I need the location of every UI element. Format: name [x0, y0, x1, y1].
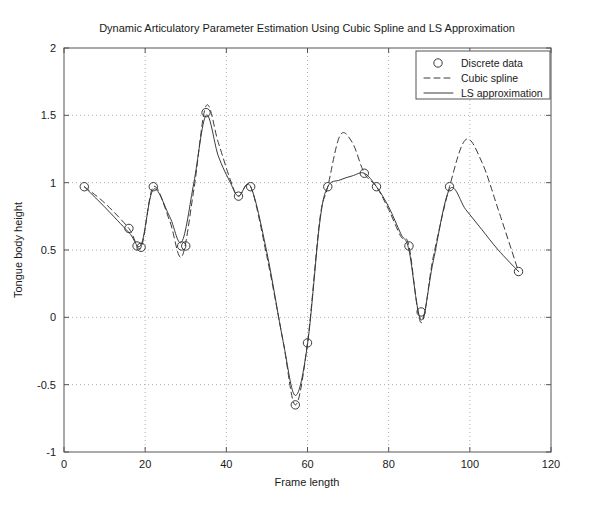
chart-figure: Dynamic Articulatory Parameter Estimatio… [0, 0, 598, 507]
legend-item-label: Cubic spline [461, 72, 518, 84]
series-line-cubic-spline [84, 105, 518, 405]
chart-title-group: Dynamic Articulatory Parameter Estimatio… [99, 22, 515, 34]
y-tick-label: 2 [50, 42, 56, 54]
x-axis-title: Frame length [275, 476, 340, 488]
series-line-ls-approximation [84, 115, 518, 396]
plot-data-layer [80, 105, 523, 409]
page-title: Dynamic Articulatory Parameter Estimatio… [99, 22, 515, 34]
y-tick-label: 0 [50, 311, 56, 323]
x-tick-label: 20 [139, 458, 151, 470]
y-tick-label: 1 [50, 177, 56, 189]
y-tick-label: 0.5 [41, 244, 56, 256]
x-tick-label: 0 [61, 458, 67, 470]
chart-legend[interactable]: Discrete dataCubic splineLS approximatio… [416, 51, 550, 99]
x-tick-label: 60 [301, 458, 313, 470]
y-axis-title: Tongue body height [12, 202, 24, 298]
y-tick-label: -1 [46, 446, 56, 458]
x-tick-label: 40 [220, 458, 232, 470]
y-tick-label: -0.5 [37, 379, 56, 391]
x-tick-label: 120 [542, 458, 560, 470]
y-tick-label: 1.5 [41, 109, 56, 121]
x-tick-label: 100 [461, 458, 479, 470]
legend-item-label: Discrete data [461, 57, 523, 69]
x-tick-label: 80 [383, 458, 395, 470]
legend-item-label: LS approximation [461, 87, 543, 99]
axis-ticks-layer: 020406080100120-1-0.500.511.52 [37, 42, 560, 470]
